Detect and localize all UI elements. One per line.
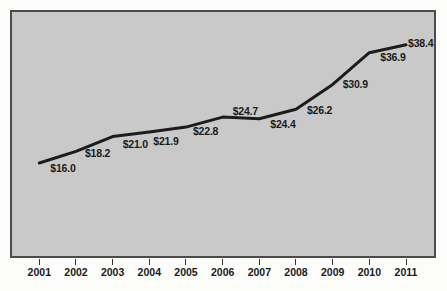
- x-axis-tick: [332, 259, 333, 265]
- x-axis-tick: [259, 259, 260, 265]
- x-axis-label: 2005: [174, 266, 197, 278]
- x-axis-tick: [185, 259, 186, 265]
- x-axis-tick: [75, 259, 76, 265]
- x-axis-tick: [149, 259, 150, 265]
- data-point-label: $22.8: [193, 126, 218, 137]
- x-axis-tick: [112, 259, 113, 265]
- data-point-label: $21.9: [153, 136, 178, 147]
- data-point-label: $30.9: [343, 79, 368, 90]
- x-axis-label: 2002: [64, 266, 87, 278]
- data-point-label: $16.0: [50, 163, 75, 174]
- x-axis-label: 2007: [248, 266, 271, 278]
- x-axis-label: 2004: [138, 266, 161, 278]
- line-chart-figure: $16.0$18.2$21.0$21.9$22.8$24.7$24.4$26.2…: [0, 0, 447, 291]
- x-axis-tick: [295, 259, 296, 265]
- data-point-label: $26.2: [307, 105, 332, 116]
- plot-area: [10, 10, 436, 258]
- x-axis-label: 2010: [358, 266, 381, 278]
- x-axis-tick: [369, 259, 370, 265]
- x-axis-label: 2009: [321, 266, 344, 278]
- data-point-label: $36.9: [380, 52, 405, 63]
- data-point-label: $24.7: [233, 106, 258, 117]
- x-axis-label: 2001: [28, 266, 51, 278]
- data-point-label: $21.0: [123, 139, 148, 150]
- x-axis-label: 2008: [284, 266, 307, 278]
- x-axis-tick: [222, 259, 223, 265]
- x-axis-label: 2003: [101, 266, 124, 278]
- data-point-label: $38.4: [408, 38, 433, 49]
- x-axis-tick: [406, 259, 407, 265]
- x-axis-tick: [39, 259, 40, 265]
- x-axis-label: 2006: [211, 266, 234, 278]
- data-point-label: $24.4: [270, 119, 295, 130]
- x-axis-label: 2011: [395, 266, 418, 278]
- data-point-label: $18.2: [85, 148, 110, 159]
